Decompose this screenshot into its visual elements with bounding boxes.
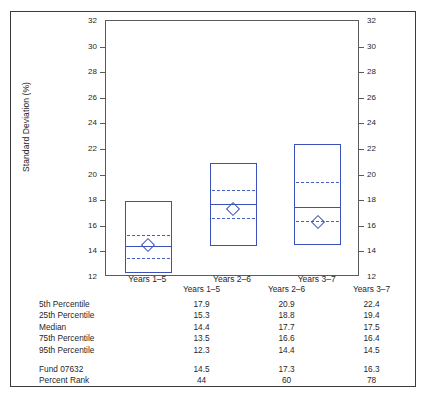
y-tick-left-30 [100,47,106,48]
y-tick-label-left-18: 18 [88,196,97,204]
y-tick-label-left-28: 28 [88,68,97,76]
table-cell-percentiles-1-2: 19.4 [329,310,414,322]
table-header-spacer [414,284,415,299]
y-axis-label: Standard Deviation (%) [21,42,31,212]
table-group-separator [11,357,415,364]
table-cell-fund-1-1: 60 [244,375,329,387]
y-tick-label-left-30: 30 [88,43,97,51]
table-cell-percentiles-4-1: 14.4 [244,345,329,357]
x-category-label-3: Years 3–7 [272,274,362,284]
table-cell-percentiles-0-2: 22.4 [329,299,414,311]
table-row-spacer [414,345,415,357]
y-tick-left-24 [100,123,106,124]
y-tick-label-left-22: 22 [88,145,97,153]
y-tick-label-left-20: 20 [88,171,97,179]
table-row-label-percentiles-4: 95th Percentile [11,345,159,357]
table-row-label-percentiles-0: 5th Percentile [11,299,159,311]
y-tick-label-right-14: 14 [367,247,376,255]
table-cell-percentiles-4-2: 14.5 [329,345,414,357]
y-tick-label-left-16: 16 [88,222,97,230]
table-row-label-fund-0: Fund 07632 [11,364,159,376]
table-row: 5th Percentile17.920.922.4 [11,299,415,311]
table-row-label-fund-1: Percent Rank [11,375,159,387]
table-header-row: Years 1–5 Years 2–6 Years 3–7 [11,284,415,299]
table-cell-percentiles-2-1: 17.7 [244,322,329,334]
table-col-header-1: Years 2–6 [244,284,329,299]
table-cell-percentiles-2-0: 14.4 [159,322,244,334]
y-tick-left-14 [100,251,106,252]
y-tick-label-left-12: 12 [88,273,97,281]
y-tick-label-right-32: 32 [367,17,376,25]
y-tick-left-28 [100,72,106,73]
table-cell-percentiles-2-2: 17.5 [329,322,414,334]
table-cell-percentiles-4-0: 12.3 [159,345,244,357]
table-row-spacer [414,299,415,311]
table-col-header-0: Years 1–5 [159,284,244,299]
y-tick-left-26 [100,98,106,99]
table-row: Percent Rank446078 [11,375,415,387]
table-corner-header [11,284,159,299]
table-row-spacer [414,364,415,376]
table-body: 5th Percentile17.920.922.425th Percentil… [11,299,415,387]
table-row-spacer [414,322,415,334]
y-tick-left-22 [100,149,106,150]
table-row-label-percentiles-1: 25th Percentile [11,310,159,322]
y-tick-label-right-28: 28 [367,68,376,76]
table-row-spacer [414,310,415,322]
table-row-spacer [414,333,415,345]
y-tick-right-20 [358,175,364,176]
percentile-table: Years 1–5 Years 2–6 Years 3–7 5th Percen… [11,284,415,387]
plot-area: 1212141416161818202022222424262628283030… [105,20,359,276]
table-cell-fund-1-2: 78 [329,375,414,387]
table-cell-fund-1-0: 44 [159,375,244,387]
figure-panel: Standard Deviation (%) 12121414161618182… [10,11,416,387]
y-tick-label-right-24: 24 [367,119,376,127]
box-3 [294,144,341,245]
table-cell-fund-0-2: 16.3 [329,364,414,376]
table-cell-fund-0-0: 14.5 [159,364,244,376]
dash-lower-line-1 [127,258,170,259]
table-cell-percentiles-0-1: 20.9 [244,299,329,311]
y-tick-label-right-22: 22 [367,145,376,153]
y-tick-label-left-24: 24 [88,119,97,127]
y-tick-label-left-14: 14 [88,247,97,255]
table-row: 95th Percentile12.314.414.5 [11,345,415,357]
y-tick-right-14 [358,251,364,252]
table-cell-percentiles-1-1: 18.8 [244,310,329,322]
y-tick-right-28 [358,72,364,73]
table-cell-percentiles-3-0: 13.5 [159,333,244,345]
y-tick-right-24 [358,123,364,124]
y-tick-label-right-16: 16 [367,222,376,230]
table-cell-percentiles-3-2: 16.4 [329,333,414,345]
y-tick-left-16 [100,226,106,227]
table-cell-percentiles-1-0: 15.3 [159,310,244,322]
y-tick-label-right-12: 12 [367,273,376,281]
table-cell-percentiles-0-0: 17.9 [159,299,244,311]
y-tick-label-right-30: 30 [367,43,376,51]
x-category-label-1: Years 1–5 [102,274,192,284]
table-row-label-percentiles-3: 75th Percentile [11,333,159,345]
y-tick-label-right-18: 18 [367,196,376,204]
table-row-spacer [414,375,415,387]
y-tick-right-22 [358,149,364,150]
y-tick-right-30 [358,47,364,48]
table-cell-fund-0-1: 17.3 [244,364,329,376]
y-tick-label-left-26: 26 [88,94,97,102]
y-tick-label-left-32: 32 [88,17,97,25]
dash-upper-line-2 [212,190,255,191]
dash-lower-line-2 [212,218,255,219]
table-row: 25th Percentile15.318.819.4 [11,310,415,322]
y-tick-right-18 [358,200,364,201]
table-col-header-2: Years 3–7 [329,284,414,299]
y-tick-label-right-20: 20 [367,171,376,179]
box-plot-chart: Standard Deviation (%) 12121414161618182… [11,12,415,284]
y-tick-left-20 [100,175,106,176]
y-tick-right-16 [358,226,364,227]
y-tick-label-right-26: 26 [367,94,376,102]
table-row: Median14.417.717.5 [11,322,415,334]
y-tick-right-26 [358,98,364,99]
table-cell-percentiles-3-1: 16.6 [244,333,329,345]
y-tick-left-18 [100,200,106,201]
dash-upper-line-3 [296,182,339,183]
dash-upper-line-1 [127,235,170,236]
